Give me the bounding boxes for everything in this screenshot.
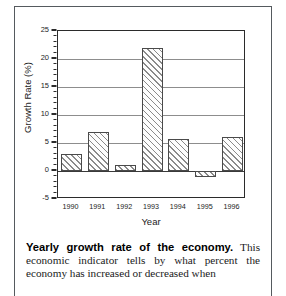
x-tick-label-1991: 1991 [89, 202, 105, 211]
y-tick-label: 5 [45, 138, 49, 146]
bar-1991 [88, 132, 109, 171]
y-tick-label: 25 [41, 26, 49, 34]
y-tick-major [52, 169, 57, 171]
bar-1994 [168, 139, 189, 171]
caption-title: Yearly growth rate of the economy. [26, 241, 233, 253]
x-axis-title: Year [57, 216, 245, 227]
y-axis-title: Growth Rate (%) [22, 38, 33, 158]
y-tick-label: 20 [41, 54, 49, 62]
y-tick-label: -5 [42, 194, 49, 202]
bar-1990 [61, 154, 82, 171]
x-tick-label-1996: 1996 [224, 202, 240, 211]
x-tick-label-1994: 1994 [170, 202, 186, 211]
y-tick-major [52, 141, 57, 143]
bar-1995 [195, 171, 216, 177]
y-tick-label: 10 [41, 110, 49, 118]
x-tick-label-1990: 1990 [62, 202, 78, 211]
y-tick-major [52, 57, 57, 59]
y-tick-major [52, 29, 57, 31]
x-tick-label-1995: 1995 [197, 202, 213, 211]
y-tick-major [52, 85, 57, 87]
plot-area [57, 30, 245, 198]
y-tick-label: 0 [45, 166, 49, 174]
figure-caption: Yearly growth rate of the economy. This … [26, 241, 260, 281]
bar-1992 [115, 165, 136, 171]
x-tick-label-1992: 1992 [116, 202, 132, 211]
y-tick-major [52, 113, 57, 115]
bar-1996 [222, 137, 243, 171]
y-tick-major [52, 197, 57, 199]
bar-1993 [142, 48, 163, 171]
x-tick-label-1993: 1993 [143, 202, 159, 211]
y-tick-label: 15 [41, 82, 49, 90]
figure-bar-chart: Growth Rate (%) -50510152025 Year 199019… [14, 6, 272, 232]
